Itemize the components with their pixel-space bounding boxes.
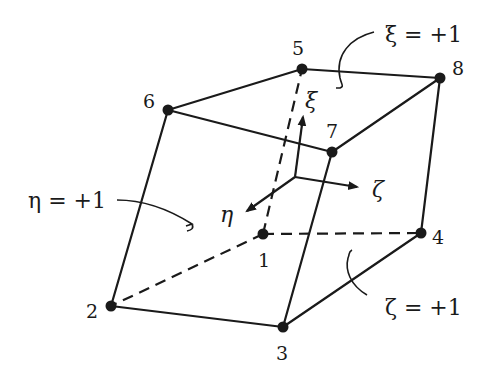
hexahedral-element-diagram: ξ ζ η 12345678 ξ = +1 η = +1 ζ = +1: [0, 0, 489, 379]
node-label-3: 3: [276, 342, 288, 364]
zeta-axis-arrow: [295, 177, 357, 187]
edge-6-7: [168, 110, 332, 152]
xi-axis-arrow: [295, 117, 303, 177]
hidden-edge-1-2: [111, 234, 263, 306]
node-2: [106, 301, 117, 312]
node-3: [278, 322, 289, 333]
element-nodes: [106, 64, 446, 333]
node-5: [297, 64, 308, 75]
hidden-edge-1-4: [263, 233, 421, 234]
face-label-eta-plus: η = +1: [28, 188, 106, 213]
natural-coordinate-axes: ξ ζ η: [220, 88, 386, 227]
visible-edges: [111, 69, 440, 327]
node-label-7: 7: [326, 120, 338, 142]
face-labels: ξ = +1 η = +1 ζ = +1: [28, 22, 462, 320]
node-7: [327, 147, 338, 158]
node-label-5: 5: [292, 37, 304, 59]
edge-5-8: [302, 69, 440, 78]
xi-axis-label: ξ: [305, 88, 319, 113]
hidden-edge-1-5: [263, 69, 302, 234]
zeta-axis-label: ζ: [372, 177, 386, 202]
edge-2-3: [111, 306, 283, 327]
node-label-6: 6: [143, 90, 155, 112]
node-label-2: 2: [86, 300, 98, 322]
node-8: [435, 73, 446, 84]
edge-7-8: [332, 78, 440, 152]
edge-6-5: [168, 69, 302, 110]
leader-xi-plus: [336, 32, 374, 88]
leader-eta-plus: [117, 200, 193, 231]
face-label-xi-plus: ξ = +1: [385, 22, 462, 47]
node-label-1: 1: [258, 249, 270, 271]
node-6: [163, 105, 174, 116]
eta-axis-label: η: [220, 202, 233, 227]
node-label-8: 8: [452, 57, 464, 79]
edge-4-8: [421, 78, 440, 233]
node-label-4: 4: [432, 226, 444, 248]
face-label-zeta-plus: ζ = +1: [385, 295, 462, 320]
node-4: [416, 228, 427, 239]
node-1: [258, 229, 269, 240]
eta-axis-arrow: [247, 177, 295, 211]
